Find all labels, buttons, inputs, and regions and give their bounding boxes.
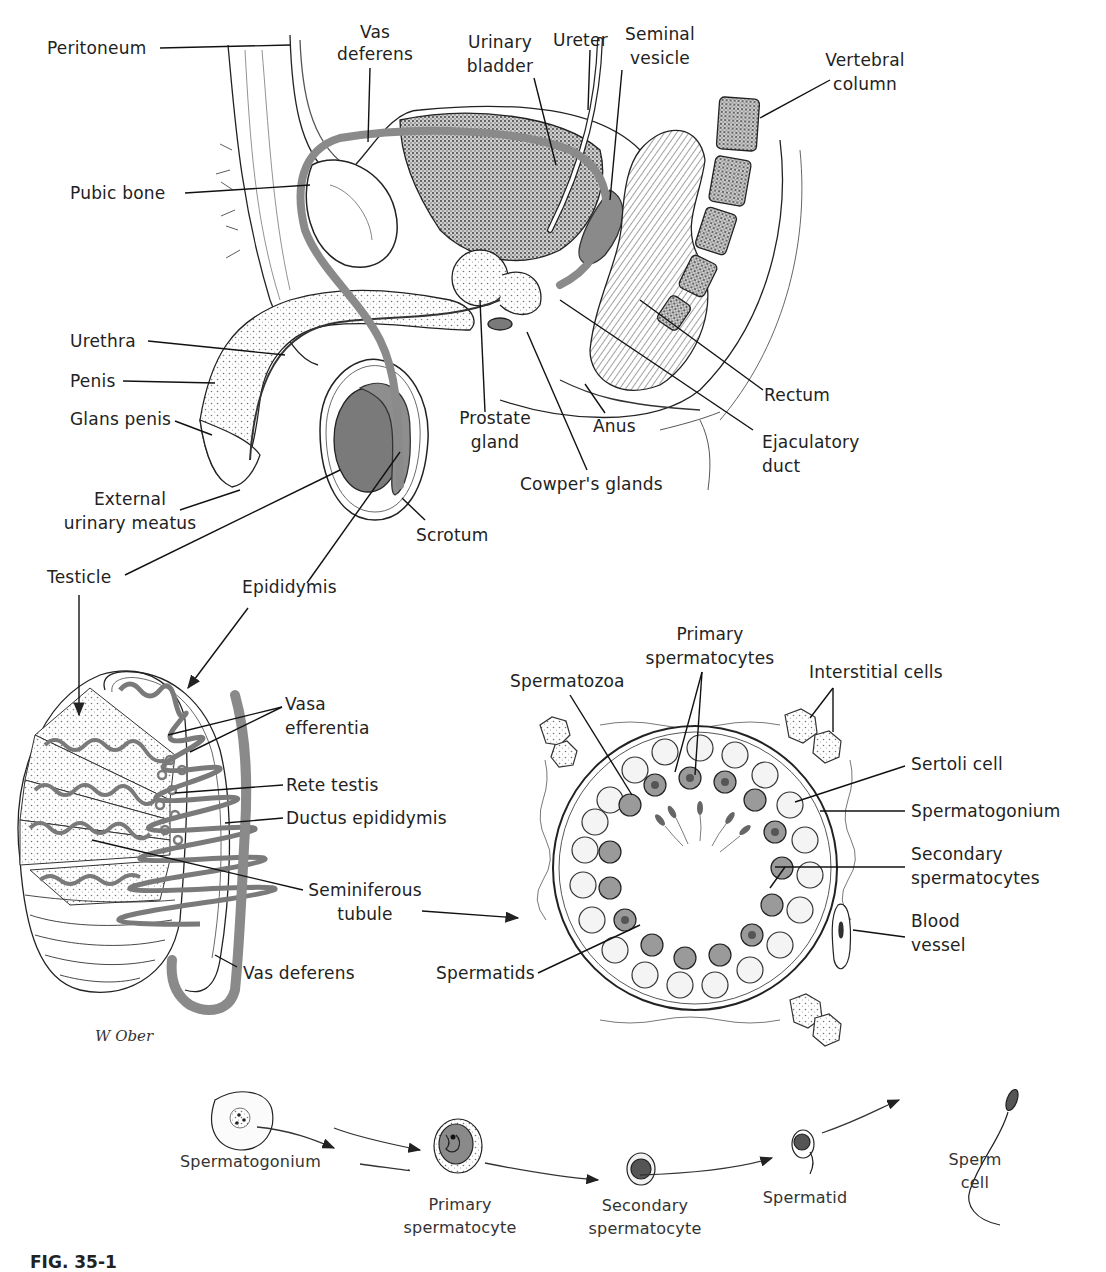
label-external-urinary-meatus-line1: External xyxy=(60,487,200,511)
label-secondary-spermatocytes-line2: spermatocytes xyxy=(911,866,1040,890)
testis-section-drawing xyxy=(18,671,275,1010)
stage-label-primary-line2: spermatocyte xyxy=(400,1216,520,1239)
label-anus: Anus xyxy=(593,414,636,438)
label-prostate-gland-line2: gland xyxy=(455,430,535,454)
label-spermatids: Spermatids xyxy=(436,961,535,985)
label-vas-deferens-line2: deferens xyxy=(330,42,420,66)
label-ureter: Ureter xyxy=(553,28,608,52)
label-glans-penis: Glans penis xyxy=(70,407,171,431)
label-vas-deferens-line1: Vas xyxy=(340,20,410,44)
stage-label-sperm-line1: Sperm xyxy=(945,1148,1005,1171)
label-urinary-bladder-line1: Urinary xyxy=(460,30,540,54)
label-secondary-spermatocytes-line1: Secondary xyxy=(911,842,1003,866)
label-epididymis: Epididymis xyxy=(242,575,337,599)
label-peritoneum: Peritoneum xyxy=(47,36,146,60)
label-blood-vessel-line1: Blood xyxy=(911,909,960,933)
figure-caption: FIG. 35-1 xyxy=(30,1252,117,1272)
label-cowpers-glands: Cowper's glands xyxy=(520,472,663,496)
label-interstitial-cells: Interstitial cells xyxy=(809,660,943,684)
label-penis: Penis xyxy=(70,369,115,393)
label-spermatogonium-tubule: Spermatogonium xyxy=(911,799,1061,823)
label-external-urinary-meatus-line2: urinary meatus xyxy=(55,511,205,535)
label-seminal-vesicle-line2: vesicle xyxy=(620,46,700,70)
label-seminiferous-tubule-line1: Seminiferous xyxy=(300,878,430,902)
label-ejaculatory-duct-line1: Ejaculatory xyxy=(762,430,859,454)
label-primary-spermatocytes-line1: Primary xyxy=(660,622,760,646)
label-rectum: Rectum xyxy=(764,383,830,407)
label-urethra: Urethra xyxy=(70,329,136,353)
stage-label-secondary-line1: Secondary xyxy=(580,1194,710,1217)
label-vasa-efferentia-line1: Vasa xyxy=(285,692,326,716)
stage-label-spermatogonium: Spermatogonium xyxy=(180,1150,320,1173)
label-seminal-vesicle-line1: Seminal xyxy=(620,22,700,46)
label-blood-vessel-line2: vessel xyxy=(911,933,966,957)
label-seminiferous-tubule-line2: tubule xyxy=(300,902,430,926)
label-rete-testis: Rete testis xyxy=(286,773,378,797)
stage-label-secondary-line2: spermatocyte xyxy=(580,1217,710,1240)
label-scrotum: Scrotum xyxy=(416,523,489,547)
label-vertebral-column-line2: column xyxy=(815,72,915,96)
artist-signature: W Ober xyxy=(95,1027,153,1045)
stage-label-primary-line1: Primary xyxy=(400,1193,520,1216)
label-ductus-epididymis: Ductus epididymis xyxy=(286,806,447,830)
label-vertebral-column-line1: Vertebral xyxy=(815,48,915,72)
stage-label-sperm-line2: cell xyxy=(945,1171,1005,1194)
label-vas-deferens-testis: Vas deferens xyxy=(243,961,355,985)
label-testicle: Testicle xyxy=(47,565,111,589)
label-ejaculatory-duct-line2: duct xyxy=(762,454,800,478)
label-pubic-bone: Pubic bone xyxy=(70,181,165,205)
label-vasa-efferentia-line2: efferentia xyxy=(285,716,370,740)
label-sertoli-cell: Sertoli cell xyxy=(911,752,1003,776)
label-prostate-gland-line1: Prostate xyxy=(455,406,535,430)
stage-label-spermatid: Spermatid xyxy=(755,1186,855,1209)
label-primary-spermatocytes-line2: spermatocytes xyxy=(645,646,775,670)
label-urinary-bladder-line2: bladder xyxy=(460,54,540,78)
label-spermatozoa: Spermatozoa xyxy=(510,669,625,693)
